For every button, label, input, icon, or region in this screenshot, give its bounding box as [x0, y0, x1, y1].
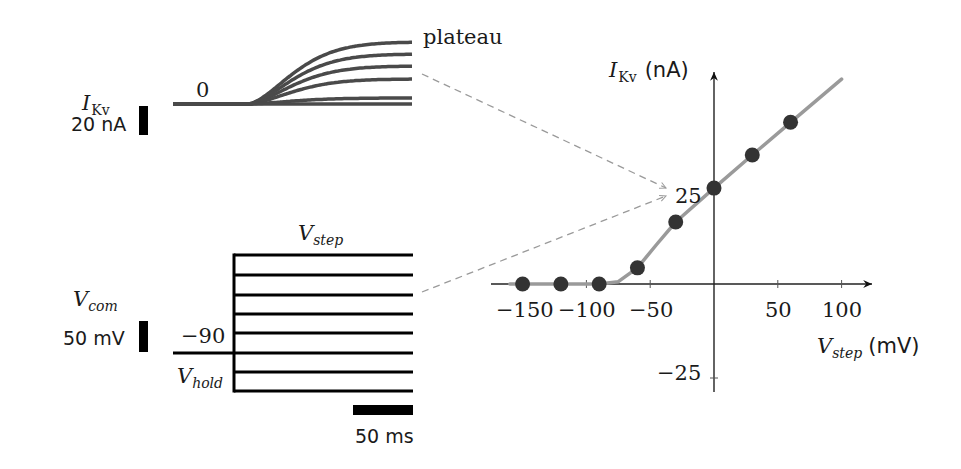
dashed-connector-arrows [422, 74, 666, 292]
x-tick-label-neg50: −50 [629, 298, 673, 322]
vhold-label: Vhold [177, 364, 223, 391]
voltage-scale-bar [139, 321, 148, 352]
x-tick-label-neg150: −150 [496, 298, 554, 322]
iv-data-point [630, 260, 645, 275]
iv-data-point [553, 277, 568, 292]
iv-plot: −150 −100 −50 50 100 25 −25 IKv(nA) Vste… [491, 58, 919, 392]
current-traces-panel: 0 plateau IKv 20 nA [71, 25, 503, 135]
x-tick-label-100: 100 [822, 298, 862, 322]
voltage-scale-bar-label: 50 mV [63, 327, 125, 349]
plateau-label: plateau [423, 25, 503, 49]
time-scale-bar-label: 50 ms [355, 425, 414, 447]
iv-y-axis-label: IKv(nA) [608, 58, 689, 85]
iv-data-point [668, 214, 683, 229]
voltage-clamp-figure: 0 plateau IKv 20 nA Vstep Vcom 50 mV −90… [0, 0, 961, 469]
x-tick-label-50: 50 [765, 298, 792, 322]
voltage-step-lines [173, 254, 413, 393]
x-tick-label-neg100: −100 [558, 298, 616, 322]
zero-current-label: 0 [196, 78, 209, 102]
iv-data-point [515, 277, 530, 292]
iv-x-axis-label: Vstep(mV) [817, 334, 919, 361]
iv-data-point [707, 181, 722, 196]
iv-fit-curve [510, 79, 842, 284]
voltage-command-panel: Vstep Vcom 50 mV −90 Vhold 50 ms [63, 221, 414, 447]
y-tick-label-25: 25 [675, 184, 702, 208]
time-scale-bar [353, 405, 413, 415]
dashed-connector [422, 196, 666, 292]
iv-data-points [515, 115, 798, 292]
current-scale-bar-label: 20 nA [71, 113, 126, 135]
y-tick-label-neg25: −25 [657, 361, 701, 385]
current-scale-bar [139, 106, 148, 135]
vcom-label: Vcom [73, 287, 118, 314]
vstep-label: Vstep [298, 221, 343, 248]
iv-data-point [783, 115, 798, 130]
iv-data-point [592, 277, 607, 292]
iv-data-point [745, 148, 760, 163]
holding-potential-value: −90 [181, 324, 225, 348]
dashed-connector [422, 74, 666, 188]
